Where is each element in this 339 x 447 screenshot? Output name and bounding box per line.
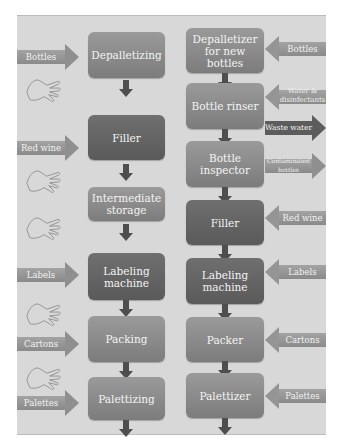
step-bottle-rinser: Bottle rinser (186, 83, 264, 129)
hand-icon (24, 72, 62, 106)
step-palettizer: Palettizer (186, 373, 264, 418)
flow-down-arrow-icon (119, 420, 133, 436)
step-label: Bottle inspector (186, 152, 264, 176)
flow-down-arrow-icon (218, 245, 232, 258)
hand-icon (24, 360, 62, 394)
input-arrow-water-disinfectants: Water & disinfectants (265, 86, 326, 108)
input-arrow-labels-right: Labels (265, 261, 326, 283)
hand-icon (24, 210, 62, 244)
arrow-label: Cartons (279, 333, 326, 347)
step-labeling-machine-right: Labeling machine (186, 258, 264, 304)
flow-down-arrow-icon (119, 224, 133, 252)
step-label: Labeling machine (186, 269, 264, 293)
step-packing: Packing (88, 316, 165, 362)
step-label: Packing (103, 333, 151, 345)
step-label: Depalletizer for new bottles (186, 33, 264, 69)
input-arrow-palettes: Palettes (17, 392, 79, 414)
arrow-label: Contaminated bottles (265, 156, 312, 176)
step-label: Labeling machine (88, 265, 165, 289)
step-intermediate-storage: Intermediate storage (88, 187, 165, 221)
arrow-label: Labels (279, 265, 326, 279)
input-arrow-red-wine-right: Red wine (265, 207, 326, 229)
step-label: Palettizer (197, 390, 254, 402)
input-arrow-bottles: Bottles (17, 46, 79, 68)
arrow-label: Bottles (17, 50, 65, 64)
arrow-label: Red wine (279, 211, 326, 225)
step-labeling-machine: Labeling machine (88, 253, 165, 300)
input-arrow-labels: Labels (17, 264, 79, 286)
step-palettizing: Palettizing (88, 377, 165, 420)
step-label: Palettizing (95, 393, 158, 405)
flow-down-arrow-icon (218, 187, 232, 200)
flow-down-arrow-icon (218, 129, 232, 141)
flow-down-arrow-icon (119, 80, 133, 114)
step-packer: Packer (186, 317, 264, 362)
output-arrow-contaminated-bottles: Contaminated bottles (265, 155, 326, 177)
step-label: Intermediate storage (88, 192, 165, 216)
step-label: Filler (208, 217, 243, 229)
step-label: Bottle rinser (188, 100, 261, 112)
input-arrow-bottles-right: Bottles (265, 38, 326, 60)
flow-down-arrow-icon (218, 418, 232, 434)
hand-icon (24, 296, 62, 330)
arrow-label: Bottles (279, 42, 326, 56)
step-label: Filler (109, 132, 144, 144)
arrow-label: Water & disinfectants (279, 87, 326, 107)
arrow-label: Cartons (17, 337, 65, 351)
arrow-label: Labels (17, 268, 65, 282)
output-arrow-waste-water: Waste water (265, 117, 326, 139)
input-arrow-red-wine: Red wine (17, 137, 79, 159)
arrow-label: Palettes (17, 396, 65, 410)
step-label: Packer (204, 334, 246, 346)
step-bottle-inspector: Bottle inspector (186, 141, 264, 187)
step-filler-right: Filler (186, 200, 264, 245)
input-arrow-palettes-right: Palettes (265, 385, 326, 407)
step-label: Depalletizing (88, 49, 165, 61)
input-arrow-cartons-right: Cartons (265, 329, 326, 351)
hand-icon (24, 163, 62, 197)
input-arrow-cartons: Cartons (17, 333, 79, 355)
step-depalletizing: Depalletizing (88, 32, 165, 78)
arrow-label: Palettes (279, 389, 326, 403)
arrow-label: Waste water (265, 121, 312, 135)
flow-down-arrow-icon (218, 304, 232, 317)
step-depalletizer-new-bottles: Depalletizer for new bottles (186, 28, 264, 73)
arrow-label: Red wine (17, 141, 65, 155)
flow-down-arrow-icon (119, 164, 133, 182)
step-filler: Filler (88, 115, 165, 160)
